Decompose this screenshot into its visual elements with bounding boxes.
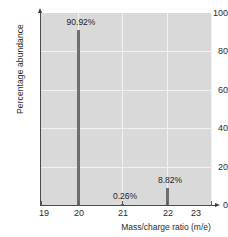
plot-area: 90.92% 0.26% 8.82% [41,13,212,205]
gridline-horizontal [41,51,212,52]
x-axis-line [40,205,216,206]
x-tick-label: 20 [68,208,90,218]
data-label-20: 90.92% [54,17,108,27]
x-tick-label: 23 [185,208,207,218]
x-axis-arrow-icon [215,203,220,207]
x-tick-mark [122,201,123,206]
gridline-horizontal [41,90,212,91]
y-axis-title: Percentage abundance [15,0,25,149]
y-axis-arrow-icon [38,8,42,13]
data-label-21: 0.26% [98,191,152,201]
data-bar-20 [77,30,80,205]
x-tick-mark [211,201,212,206]
x-tick-mark [78,201,79,206]
mass-spectrum-chart: Percentage abundance 100 80 60 40 20 0 9… [0,0,228,237]
x-axis-title: Mass/charge ratio (m/e) [104,222,228,232]
gridline-vertical [122,13,123,205]
gridline-vertical [211,13,212,205]
data-label-22: 8.82% [143,175,197,185]
gridline-horizontal [41,167,212,168]
y-axis-line [40,13,41,206]
x-tick-mark [167,201,168,206]
x-tick-label: 22 [157,208,179,218]
x-tick-mark [41,201,42,206]
gridline-horizontal [41,128,212,129]
x-tick-label: 21 [112,208,134,218]
x-tick-label: 19 [33,208,55,218]
